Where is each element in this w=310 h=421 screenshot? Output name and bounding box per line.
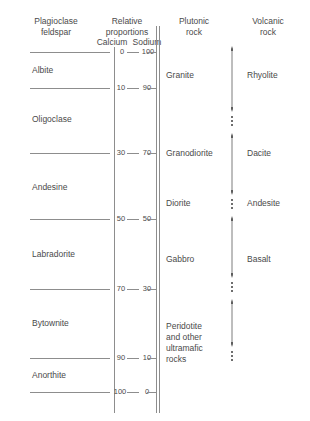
dotted-separator-2 xyxy=(231,199,233,212)
tick-row-line-4-right xyxy=(147,219,157,220)
tick-row-line-5-right xyxy=(147,289,157,290)
tick-row-line-3-left xyxy=(30,153,110,154)
tick-row-line-2-right xyxy=(147,88,157,89)
rock-continuum-arrow-column xyxy=(231,44,233,364)
column-header-volcanic-rock: Volcanic rock xyxy=(238,16,298,37)
mineral-label-labradorite: Labradorite xyxy=(32,249,75,259)
column-header-calcium: Calcium xyxy=(93,37,131,48)
mineral-label-bytownite: Bytownite xyxy=(32,318,69,328)
plutonic-boundary-line-outer xyxy=(159,26,160,413)
tick-row-line-7-left xyxy=(30,392,110,393)
column-header-plutonic-rock: Plutonic rock xyxy=(166,16,222,37)
volcanic-label-andesite: Andesite xyxy=(247,198,280,208)
tick-row-line-3-right xyxy=(147,153,157,154)
tick-row-line-4-left xyxy=(30,219,110,220)
dotted-separator-4 xyxy=(231,351,233,364)
tick-row-line-2-left xyxy=(30,88,110,89)
tick-row-line-7-right xyxy=(147,392,157,393)
tick-row-line-1-left xyxy=(30,52,110,53)
volcanic-label-rhyolite: Rhyolite xyxy=(247,70,278,80)
volcanic-label-basalt: Basalt xyxy=(247,254,271,264)
mineral-label-oligoclase: Oligoclase xyxy=(32,114,72,124)
plagioclase-feldspar-classification-diagram: Plagioclase feldspar Relative proportion… xyxy=(0,0,310,421)
column-header-relative-proportions: Relative proportions xyxy=(94,16,160,37)
mineral-label-andesine: Andesine xyxy=(32,182,67,192)
volcanic-label-dacite: Dacite xyxy=(247,148,271,158)
tick-row-line-6-left xyxy=(30,358,110,359)
double-headed-arrow-icon-1 xyxy=(231,46,233,112)
double-headed-arrow-icon-3 xyxy=(231,216,233,278)
tick-row-line-1-right xyxy=(147,52,157,53)
double-headed-arrow-icon-2 xyxy=(231,133,233,195)
plutonic-label-granodiorite: Granodiorite xyxy=(166,148,213,158)
mineral-label-anorthite: Anorthite xyxy=(32,370,66,380)
column-header-plagioclase-feldspar: Plagioclase feldspar xyxy=(18,16,94,37)
column-header-sodium: Sodium xyxy=(128,37,166,48)
double-headed-arrow-icon-4 xyxy=(231,299,233,347)
plutonic-label-gabbro: Gabbro xyxy=(166,254,194,264)
dotted-separator-1 xyxy=(231,116,233,129)
plutonic-label-granite: Granite xyxy=(166,70,194,80)
mineral-label-albite: Albite xyxy=(32,65,53,75)
tick-row-line-5-left xyxy=(30,289,110,290)
dotted-separator-3 xyxy=(231,282,233,295)
plutonic-label-diorite: Diorite xyxy=(166,198,191,208)
tick-row-line-6-right xyxy=(147,358,157,359)
plutonic-label-peridotite: Peridotite and other ultramafic rocks xyxy=(166,321,203,365)
